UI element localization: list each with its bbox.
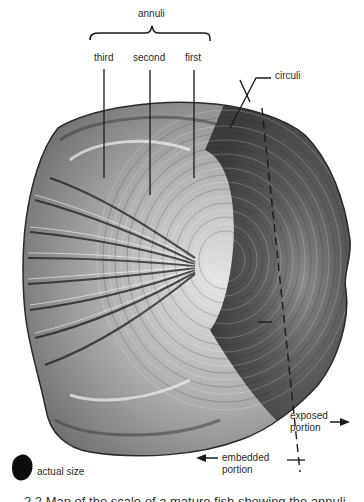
exposed-arrow-icon	[330, 418, 350, 426]
label-embedded-1: embedded	[222, 452, 269, 464]
embedded-arrow-icon	[196, 454, 218, 462]
label-actual-size: actual size	[37, 466, 84, 478]
label-second: second	[133, 52, 165, 64]
annuli-brace	[90, 26, 210, 41]
actual-size-blob	[12, 454, 33, 480]
label-first: first	[185, 52, 201, 64]
label-circuli: circuli	[275, 70, 301, 82]
figure-caption: 2.2 Map of the scale of a mature fish sh…	[24, 494, 346, 502]
label-exposed-2: portion	[290, 422, 321, 434]
label-embedded-2: portion	[222, 464, 253, 476]
label-annuli: annuli	[138, 8, 165, 20]
label-exposed-1: exposed	[290, 410, 328, 422]
label-third: third	[94, 52, 113, 64]
